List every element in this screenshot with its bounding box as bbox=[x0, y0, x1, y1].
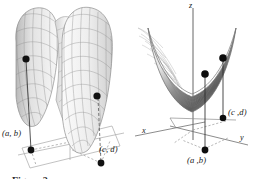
right-back-wireframe bbox=[138, 28, 182, 89]
right-surface-plot bbox=[130, 0, 255, 179]
figure-root: (a, b) (c, d) Figure 2 bbox=[0, 0, 255, 179]
left-base-point-c bbox=[98, 160, 105, 167]
panel-right-paraboloid: z x y (c ,d) (a ,b) Figure 2.1 bbox=[130, 0, 255, 179]
label-axis-z: z bbox=[189, 1, 192, 10]
left-base-point-a bbox=[28, 147, 35, 154]
left-lobe-b bbox=[61, 6, 113, 154]
right-projection-guides bbox=[174, 121, 228, 149]
right-surface-point-a bbox=[201, 70, 209, 78]
label-point-cd-left: (c, d) bbox=[99, 144, 118, 154]
right-base-point-c bbox=[220, 115, 227, 122]
caption-left: Figure 2 bbox=[12, 175, 48, 179]
left-lobe-a bbox=[13, 7, 60, 128]
label-point-ab-left: (a, b) bbox=[2, 128, 21, 138]
left-surface-point-a bbox=[22, 55, 29, 62]
label-axis-y: y bbox=[240, 133, 244, 142]
panel-left-saddle: (a, b) (c, d) Figure 2 bbox=[0, 0, 130, 179]
right-base-plane-guides bbox=[170, 118, 236, 128]
label-point-cd-right: (c ,d) bbox=[228, 107, 247, 117]
label-point-ab-right: (a ,b) bbox=[187, 155, 206, 165]
right-surface-point-c bbox=[219, 54, 227, 62]
left-surface-point-c bbox=[93, 92, 100, 99]
label-axis-x: x bbox=[142, 126, 146, 135]
right-base-point-a bbox=[202, 147, 209, 154]
right-base-axes bbox=[135, 122, 248, 145]
